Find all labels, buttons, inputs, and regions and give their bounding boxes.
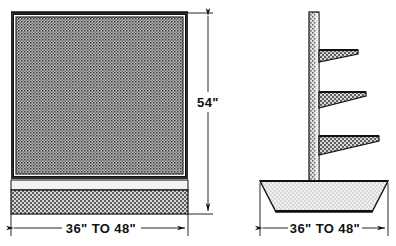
base-kick-panel — [11, 190, 188, 214]
technical-drawing-canvas: 54" 36" TO 48" — [0, 0, 396, 246]
front-width-dimension-label: 36" TO 48" — [66, 221, 136, 236]
vertical-post-highlight — [316, 13, 319, 181]
side-width-dimension-label: 36" TO 48" — [290, 221, 360, 236]
pegboard-panel — [16, 17, 183, 174]
drawing-svg: 54" 36" TO 48" — [0, 0, 396, 246]
trapezoid-base — [260, 181, 388, 212]
height-dimension-label: 54" — [197, 95, 219, 110]
base-gap-band — [11, 180, 188, 190]
front-view — [11, 12, 188, 214]
